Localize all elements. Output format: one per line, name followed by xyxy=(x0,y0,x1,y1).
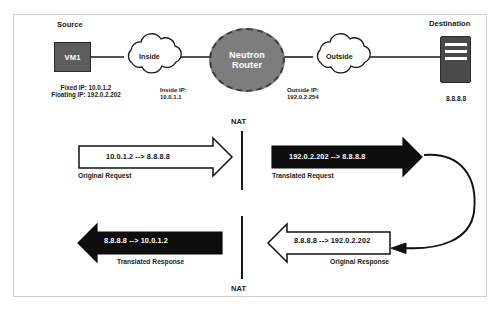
original-response-caption: Original Response xyxy=(330,258,389,266)
outside-ip-line2: 192.0.2.254 xyxy=(287,94,357,101)
inside-ip-line1: Inside IP: xyxy=(160,87,220,94)
translated-response-text: 8.8.8.8 --> 10.0.1.2 xyxy=(104,236,168,245)
original-request-text: 10.0.1.2 --> 8.8.8.8 xyxy=(106,152,170,161)
translated-request-caption: Translated Request xyxy=(272,172,334,180)
neutron-router-node[interactable]: Neutron Router xyxy=(209,28,285,92)
original-request-caption: Original Request xyxy=(78,172,132,180)
nat-label-bottom: NAT xyxy=(231,285,246,294)
destination-server-node[interactable] xyxy=(440,36,471,83)
translated-request-text: 192.0.2.202 --> 8.8.8.8 xyxy=(289,152,365,161)
router-inside-ip-label: Inside IP: 10.0.1.1 xyxy=(160,87,220,101)
source-section-label: Source xyxy=(57,21,83,30)
outside-cloud-label: Outside xyxy=(326,53,353,61)
router-outside-ip-label: Outside IP: 192.0.2.254 xyxy=(287,87,357,101)
source-ip-labels: Fixed IP: 10.0.1.2 Floating IP: 192.0.2.… xyxy=(26,84,146,99)
inside-ip-line2: 10.0.1.1 xyxy=(160,94,220,101)
floating-ip-label: Floating IP: 192.0.2.202 xyxy=(26,91,146,98)
vm1-node[interactable]: VM1 xyxy=(54,42,91,72)
fixed-ip-label: Fixed IP: 10.0.1.2 xyxy=(26,84,146,91)
translated-response-caption: Translated Response xyxy=(117,258,184,266)
inside-cloud-label: Inside xyxy=(139,53,160,61)
server-bar-icon xyxy=(445,57,467,60)
router-label-line2: Router xyxy=(232,60,262,70)
server-bar-icon xyxy=(445,43,467,46)
original-response-text: 8.8.8.8 --> 192.0.2.202 xyxy=(294,236,370,245)
router-label-line1: Neutron xyxy=(229,50,265,60)
vm1-label: VM1 xyxy=(55,43,90,73)
outside-ip-line1: Outside IP: xyxy=(287,87,357,94)
destination-ip-label: 8.8.8.8 xyxy=(416,95,496,103)
server-bar-icon xyxy=(445,50,467,53)
destination-section-label: Destination xyxy=(429,20,470,29)
nat-label-top: NAT xyxy=(231,118,246,127)
